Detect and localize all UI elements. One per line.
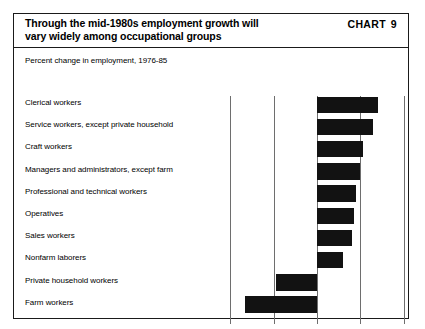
category-label: Managers and administrators, except farm <box>25 165 173 174</box>
bar-row: Clerical workers <box>14 94 408 116</box>
chart-card: Through the mid-1980s employment growth … <box>13 13 409 319</box>
category-label: Clerical workers <box>25 98 81 107</box>
bar-row: Service workers, except private househol… <box>14 116 408 138</box>
category-label: Nonfarm laborers <box>25 253 86 262</box>
bar <box>276 274 317 291</box>
title-line-1: Through the mid-1980s employment growth … <box>25 17 259 29</box>
bar <box>317 97 378 114</box>
chart-body: Percent change in employment, 1976-85 So… <box>14 48 408 318</box>
bar-row: Private household workers <box>14 272 408 294</box>
chart-label: CHART <box>348 18 386 30</box>
bar <box>245 296 317 313</box>
bar-row: Operatives <box>14 205 408 227</box>
bar-row: Professional and technical workers <box>14 183 408 205</box>
page-title: Through the mid-1980s employment growth … <box>25 17 315 43</box>
bar <box>317 208 354 225</box>
category-label: Operatives <box>25 209 63 218</box>
title-line-2: vary widely among occupational groups <box>25 30 315 43</box>
category-label: Private household workers <box>25 276 118 285</box>
chart-header: Through the mid-1980s employment growth … <box>14 14 408 48</box>
bar <box>317 252 343 269</box>
category-label: Service workers, except private househol… <box>25 120 173 129</box>
bar <box>317 141 363 158</box>
bar <box>317 163 360 180</box>
bar <box>317 230 352 247</box>
bar-row: Craft workers <box>14 138 408 160</box>
bar <box>317 185 356 202</box>
bar-row: Farm workers <box>14 294 408 316</box>
chart-number: 9 <box>391 18 397 30</box>
category-label: Professional and technical workers <box>25 187 147 196</box>
bar-row: Nonfarm laborers <box>14 249 408 271</box>
category-label: Craft workers <box>25 142 72 151</box>
bar-row: Sales workers <box>14 227 408 249</box>
category-label: Farm workers <box>25 298 73 307</box>
chart-number-badge: CHART9 <box>348 18 397 30</box>
bar <box>317 119 373 136</box>
bar-row: Managers and administrators, except farm <box>14 161 408 183</box>
category-label: Sales workers <box>25 231 75 240</box>
chart-subtitle: Percent change in employment, 1976-85 <box>25 56 167 65</box>
